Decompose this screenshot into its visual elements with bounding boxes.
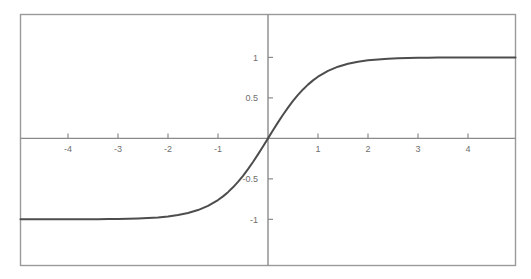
x-axis-tick-label: -4 [64,144,72,154]
x-axis-tick-label: 1 [315,144,320,154]
x-axis-tick-label: 2 [365,144,370,154]
x-axis-tick-label: -2 [164,144,172,154]
x-axis-tick-label: -1 [214,144,222,154]
y-axis-tick-label: -0.5 [242,174,258,184]
tanh-plot: -4-3-2-11234-1-0.50.51 [0,0,531,279]
x-axis-tick-label: 4 [465,144,470,154]
chart-figure: -4-3-2-11234-1-0.50.51 [0,0,531,279]
x-axis-tick-label: 3 [415,144,420,154]
y-axis-tick-label: 0.5 [245,93,258,103]
y-axis-tick-label: 1 [253,53,258,63]
x-axis-tick-label: -3 [114,144,122,154]
y-axis-tick-label: -1 [250,215,258,225]
